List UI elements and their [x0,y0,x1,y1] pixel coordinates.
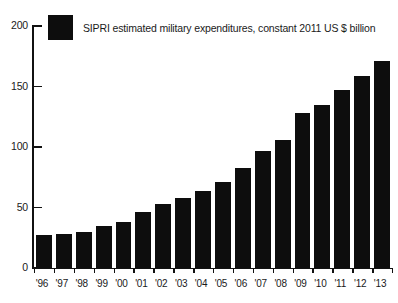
bar [295,113,311,268]
x-axis-tick-label: '05 [211,278,231,289]
bar [155,204,171,268]
bar [255,151,271,268]
legend-label: SIPRI estimated military expenditures, c… [83,22,375,34]
x-axis-tick [213,268,214,273]
y-axis-tick-label-text: 200 [2,20,28,31]
y-axis-tick-label: 100 [0,141,28,152]
bar [116,222,132,268]
x-axis-tick [253,268,254,273]
y-axis-tick [34,86,42,88]
x-axis-tick-label: '04 [191,278,211,289]
x-axis-tick-label: '01 [131,278,151,289]
x-axis-tick [312,268,313,273]
x-axis-tick-label: '96 [32,278,52,289]
bar [175,198,191,268]
x-axis-tick [352,268,353,273]
x-axis-tick-label: '13 [370,278,390,289]
x-axis-tick [54,268,55,273]
x-axis-tick [94,268,95,273]
bar [334,90,350,268]
bar [96,226,112,268]
x-axis-tick [153,268,154,273]
x-axis-tick-label: '07 [251,278,271,289]
y-axis-tick [34,146,42,148]
x-axis-tick [372,268,373,273]
bar [76,232,92,268]
x-axis-tick [34,268,35,273]
y-axis-tick [34,25,42,27]
bar [36,235,52,268]
bar [275,140,291,268]
x-axis-tick [133,268,134,273]
y-axis-tick-label-text: 50 [2,202,28,213]
bar [354,76,370,268]
x-axis-tick-label: '12 [350,278,370,289]
bar [56,234,72,268]
corner-mark [395,297,396,303]
y-axis-tick [34,207,42,209]
legend-swatch-icon [48,15,73,40]
x-axis-tick [114,268,115,273]
bar [215,182,231,268]
x-axis-tick [193,268,194,273]
x-axis-tick [392,268,393,273]
x-axis-tick [332,268,333,273]
x-axis-tick-label: '00 [112,278,132,289]
chart-container: 050100150200 '96'97'98'99'00'01'02'03'04… [0,0,398,303]
y-axis-tick-label-text: 150 [2,81,28,92]
x-axis-tick-label: '10 [310,278,330,289]
bar [195,191,211,268]
x-axis-tick-label: '03 [171,278,191,289]
y-axis-tick-label: 0 [0,262,28,273]
x-axis-tick [233,268,234,273]
x-axis-tick-label: '97 [52,278,72,289]
x-axis-tick [173,268,174,273]
x-axis-tick-label: '08 [271,278,291,289]
y-axis-tick-label-text: 100 [2,141,28,152]
bar [314,105,330,268]
bar [235,168,251,268]
x-axis-tick [273,268,274,273]
x-axis-tick-label: '06 [231,278,251,289]
x-axis-tick-label: '09 [291,278,311,289]
x-axis-tick [74,268,75,273]
y-axis-tick-label-text: 0 [2,262,28,273]
x-axis-tick-label: '98 [72,278,92,289]
x-axis-tick-label: '02 [151,278,171,289]
x-axis-tick-label: '11 [330,278,350,289]
y-axis-tick-label: 150 [0,81,28,92]
x-axis-tick-label: '99 [92,278,112,289]
x-axis-tick [293,268,294,273]
bar [135,212,151,268]
bar [374,61,390,268]
y-axis-tick-label: 50 [0,202,28,213]
legend: SIPRI estimated military expenditures, c… [48,15,375,40]
y-axis-tick-label: 200 [0,20,28,31]
